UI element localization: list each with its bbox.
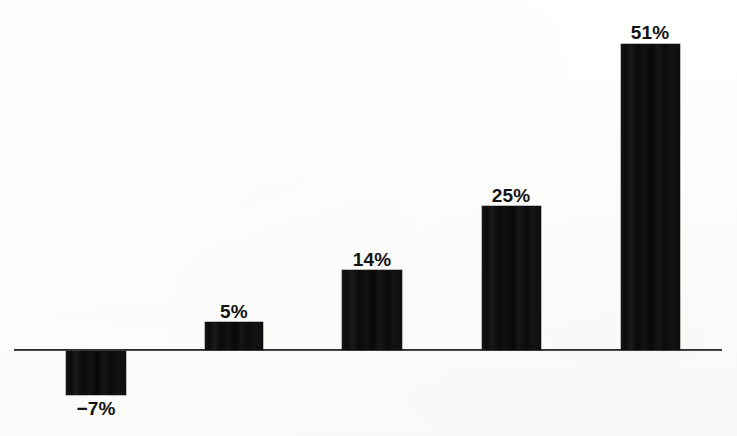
bar-4-value-label: 25% — [471, 186, 551, 205]
chart-canvas: −7% 5% 14% 25% 51% — —— ——— —— — ———— ——… — [0, 0, 737, 436]
bar-chart-plot-area: −7% 5% 14% 25% 51% — [0, 0, 737, 436]
bar-3-fourteen[interactable] — [342, 270, 402, 350]
bar-5-fiftyone[interactable] — [621, 44, 680, 350]
bar-5-value-label: 51% — [610, 23, 690, 42]
bar-4-twentyfive[interactable] — [482, 206, 541, 350]
bar-3-value-label: 14% — [332, 250, 412, 269]
bar-1-negative-seven[interactable] — [66, 351, 126, 395]
bar-2-value-label: 5% — [194, 302, 274, 321]
bar-1-value-label: −7% — [56, 399, 136, 418]
bar-2-five[interactable] — [205, 322, 263, 350]
